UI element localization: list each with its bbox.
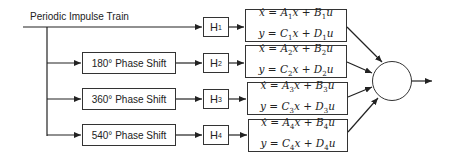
filter-index: 2 [218, 60, 222, 67]
filter-block-h1: H1 [203, 17, 229, 37]
filter-name: H [210, 129, 218, 141]
phase-shift-label: 180° Phase Shift [92, 58, 167, 69]
input-label: Periodic Impulse Train [30, 11, 129, 22]
phase-shift-block-180: 180° Phase Shift [82, 52, 176, 74]
filter-index: 1 [218, 24, 222, 31]
filter-block-h2: H2 [203, 53, 229, 73]
state-equation: ẋ = A1x + B1u [259, 5, 333, 25]
filter-block-h4: H4 [203, 125, 229, 145]
state-equation: ẋ = A2x + B2u [259, 41, 333, 61]
phase-shift-block-360: 360° Phase Shift [82, 88, 176, 110]
output-equation: y = C4x + D4u [261, 136, 336, 156]
phase-shift-label: 360° Phase Shift [92, 94, 167, 105]
phase-shift-block-540: 540° Phase Shift [82, 124, 176, 146]
filter-index: 4 [218, 132, 222, 139]
state-space-block-1: ẋ = A1x + B1u y = C1x + D1u [245, 9, 347, 42]
filter-name: H [210, 93, 218, 105]
state-space-block-4: ẋ = A4x + B4u y = C4x + D4u [248, 119, 348, 152]
state-space-block-2: ẋ = A2x + B2u y = C2x + D2u [245, 45, 347, 78]
state-equation: ẋ = A4x + B4u [261, 115, 335, 135]
filter-block-h3: H3 [203, 89, 229, 109]
state-space-block-3: ẋ = A3x + B3u y = C3x + D3u [247, 82, 348, 115]
filter-index: 3 [218, 96, 222, 103]
summing-junction [372, 61, 412, 101]
filter-name: H [210, 21, 218, 33]
state-equation: ẋ = A3x + B3u [261, 78, 335, 98]
phase-shift-label: 540° Phase Shift [92, 130, 167, 141]
filter-name: H [210, 57, 218, 69]
